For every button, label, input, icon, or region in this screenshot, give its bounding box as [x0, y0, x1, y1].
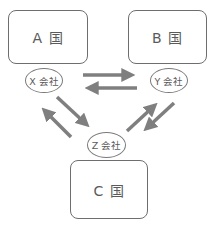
company-y-label: Y 会社	[155, 74, 184, 88]
country-c-label: C 国	[93, 180, 124, 200]
company-x-ellipse: X 会社	[25, 68, 63, 93]
company-z-label: Z 会社	[92, 138, 122, 152]
country-c-box: C 国	[70, 160, 148, 219]
country-a-box: A 国	[8, 10, 88, 64]
country-b-label: B 国	[152, 27, 183, 47]
country-b-box: B 国	[128, 10, 207, 64]
company-x-label: X 会社	[29, 74, 59, 88]
arrow-x-to-z	[57, 97, 85, 123]
country-a-label: A 国	[32, 27, 63, 47]
company-y-ellipse: Y 会社	[150, 68, 188, 93]
trade-diagram: A 国 B 国 C 国 X 会社 Y 会社 Z 会社	[0, 0, 214, 226]
company-z-ellipse: Z 会社	[87, 132, 126, 158]
arrow-z-to-x	[46, 112, 71, 137]
